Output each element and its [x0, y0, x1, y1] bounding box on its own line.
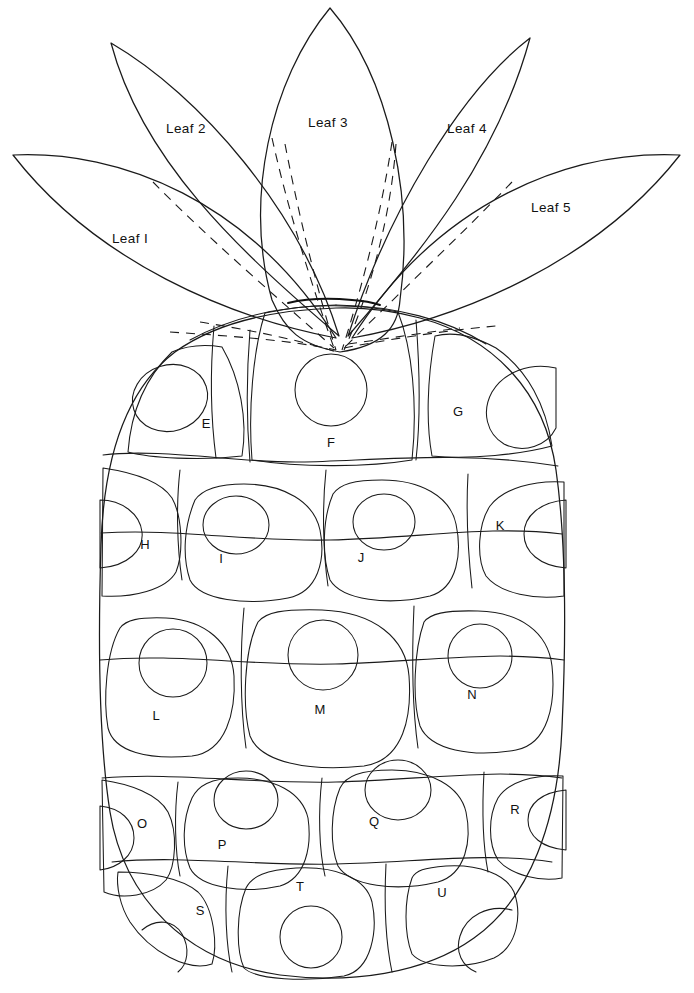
guide-leaf-5 — [344, 182, 512, 348]
scale-t-outline[interactable] — [238, 868, 374, 979]
cell-p-label: P — [218, 837, 227, 852]
crown-base-arc-left — [190, 305, 336, 340]
cell-h-label: H — [140, 537, 149, 552]
cell-e-label: E — [202, 416, 211, 431]
pattern-canvas: Leaf I Leaf 2 Leaf 3 Leaf 4 Leaf 5 E F G… — [0, 0, 694, 993]
scale-p-outline[interactable] — [184, 778, 309, 889]
scale-separators — [176, 320, 488, 972]
cell-k-label: K — [496, 518, 505, 533]
placement-guides-group — [153, 138, 512, 352]
body-row-4 — [100, 760, 566, 896]
cell-q-label: Q — [369, 814, 379, 829]
leaf-labels: Leaf I Leaf 2 Leaf 3 Leaf 4 Leaf 5 — [112, 115, 571, 246]
scale-o-outline[interactable] — [102, 780, 175, 896]
scale-s-outline[interactable] — [118, 872, 215, 966]
scale-k-outline[interactable] — [480, 482, 564, 597]
leaf-3-label: Leaf 3 — [308, 115, 348, 130]
leaf-5-shape[interactable] — [352, 155, 680, 338]
scale-s-center[interactable] — [142, 922, 187, 972]
scale-n-outline[interactable] — [415, 611, 553, 753]
cell-s-label: S — [196, 903, 205, 918]
separator-jk — [467, 474, 472, 588]
leaf-1-shape[interactable] — [13, 155, 336, 338]
leaf-3-shape[interactable] — [261, 8, 404, 352]
cell-labels: E F G H I J K L M N O P Q R S T U — [137, 404, 520, 918]
scale-u-center[interactable] — [458, 908, 512, 972]
leaf-4-shape[interactable] — [348, 38, 530, 336]
leaf-4-label: Leaf 4 — [447, 121, 487, 136]
scale-l-center[interactable] — [139, 629, 207, 697]
cell-o-label: O — [137, 816, 147, 831]
scale-f-center[interactable] — [295, 354, 367, 426]
cell-j-label: J — [358, 550, 365, 565]
row-divider-2 — [101, 531, 562, 540]
body-row-3 — [106, 610, 553, 768]
body-row-2 — [100, 468, 566, 601]
scale-q-center[interactable] — [365, 760, 431, 820]
scale-l-outline[interactable] — [106, 618, 235, 757]
cell-m-label: M — [315, 702, 326, 717]
cell-u-label: U — [437, 885, 446, 900]
body-outline[interactable] — [100, 308, 565, 978]
body-group — [100, 299, 566, 979]
scale-m-center[interactable] — [288, 620, 358, 690]
separator-fg — [416, 320, 419, 460]
scale-u-outline[interactable] — [406, 866, 518, 966]
cell-i-label: I — [219, 551, 223, 566]
separator-st — [226, 866, 232, 972]
cell-g-label: G — [453, 404, 463, 419]
leaf-5-label: Leaf 5 — [531, 200, 571, 215]
body-row-5 — [118, 866, 518, 980]
pineapple-pattern-drawing: Leaf I Leaf 2 Leaf 3 Leaf 4 Leaf 5 E F G… — [0, 0, 694, 993]
row-divider-1 — [103, 453, 558, 466]
cell-n-label: N — [467, 687, 476, 702]
guide-leaf-3-right — [342, 142, 392, 350]
cell-l-label: L — [152, 708, 159, 723]
scale-i-outline[interactable] — [185, 484, 322, 601]
separator-tu — [385, 864, 392, 972]
cell-t-label: T — [296, 879, 304, 894]
row-divider-4 — [102, 774, 562, 782]
cell-r-label: R — [510, 802, 519, 817]
scale-g-center[interactable] — [486, 366, 556, 448]
leaf-1-label: Leaf I — [112, 231, 148, 246]
scale-j-outline[interactable] — [324, 480, 458, 601]
scale-t-center[interactable] — [280, 906, 342, 968]
body-row-1 — [124, 306, 556, 466]
guide-band-left — [170, 332, 336, 350]
scale-j-center[interactable] — [353, 494, 415, 550]
scale-i-center[interactable] — [203, 496, 269, 554]
scale-h-center[interactable] — [100, 500, 142, 568]
row-divider-3 — [100, 656, 564, 664]
leaf-2-shape[interactable] — [111, 43, 339, 336]
guide-leaf-3-left — [285, 144, 336, 350]
separator-qr — [483, 772, 488, 872]
separator-op — [176, 782, 180, 876]
scale-r-outline[interactable] — [491, 776, 564, 880]
scale-r-center[interactable] — [528, 790, 566, 850]
cell-f-label: F — [327, 435, 335, 450]
scale-m-outline[interactable] — [245, 610, 409, 768]
scale-q-outline[interactable] — [332, 770, 468, 887]
leaf-2-label: Leaf 2 — [166, 121, 206, 136]
separator-ef — [247, 330, 250, 462]
guide-band-low-left — [200, 322, 336, 352]
scale-e-outline[interactable] — [128, 346, 244, 459]
guide-leaf-2 — [272, 138, 334, 348]
separator-pq — [320, 778, 325, 876]
